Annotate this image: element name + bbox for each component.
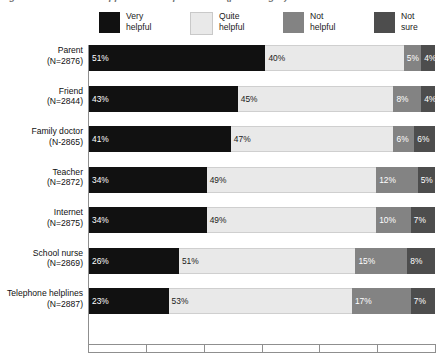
bar-row-count: (N=2869) xyxy=(0,258,83,269)
bar-row-category: Family doctor xyxy=(0,126,83,137)
bar-segment-quite-helpful[interactable]: 49% xyxy=(207,207,377,233)
bar-row-label: School nurse(N=2869) xyxy=(0,248,83,269)
stacked-bar: 26%51%15%8% xyxy=(89,248,435,274)
chart-area: Parent(N=2876)51%40%5%4%Friend(N=2844)43… xyxy=(0,41,444,341)
bar-segment-value: 5% xyxy=(404,53,419,63)
figure-title: Figure 2.5 Sources of support: how helpf… xyxy=(0,0,444,3)
bar-row-label: Family doctor(N-2865) xyxy=(0,126,83,147)
legend-swatch-icon xyxy=(190,12,213,35)
bar-segment-not-sure[interactable]: 4% xyxy=(421,45,435,71)
bar-segment-very-helpful[interactable]: 34% xyxy=(89,167,207,193)
stacked-bar: 43%45%8%4% xyxy=(89,86,435,112)
bar-segment-quite-helpful[interactable]: 53% xyxy=(169,288,352,314)
stacked-bar: 34%49%12%5% xyxy=(89,167,435,193)
x-axis-tick xyxy=(146,344,147,353)
bar-segment-value: 34% xyxy=(89,175,109,185)
legend-label: Quite helpful xyxy=(219,11,244,32)
legend-item-very-helpful[interactable]: Very helpful xyxy=(99,11,151,33)
bar-row-category: School nurse xyxy=(0,248,83,259)
bar-row: Teacher(N=2872)34%49%12%5% xyxy=(0,167,444,193)
bar-segment-value: 45% xyxy=(238,94,258,104)
bar-segment-quite-helpful[interactable]: 49% xyxy=(207,167,377,193)
bar-segment-not-helpful[interactable]: 8% xyxy=(393,86,421,112)
bar-row-count: (N=2887) xyxy=(0,299,83,310)
bar-segment-value: 34% xyxy=(89,215,109,225)
bar-segment-not-sure[interactable]: 7% xyxy=(411,207,435,233)
bar-segment-value: 8% xyxy=(393,94,408,104)
legend-item-quite-helpful[interactable]: Quite helpful xyxy=(190,11,244,35)
bar-row-label: Teacher(N=2872) xyxy=(0,167,83,188)
bar-segment-not-helpful[interactable]: 12% xyxy=(376,167,418,193)
bar-segment-not-helpful[interactable]: 6% xyxy=(393,126,414,152)
legend-label: Very helpful xyxy=(126,11,151,32)
bar-segment-not-sure[interactable]: 6% xyxy=(414,126,435,152)
bar-segment-not-sure[interactable]: 5% xyxy=(418,167,435,193)
bar-row-category: Internet xyxy=(0,207,83,218)
bar-segment-very-helpful[interactable]: 41% xyxy=(89,126,231,152)
bar-segment-value: 49% xyxy=(207,215,227,225)
bar-row-count: (N=2844) xyxy=(0,96,83,107)
bar-segment-quite-helpful[interactable]: 47% xyxy=(231,126,394,152)
bar-segment-value: 10% xyxy=(376,215,396,225)
x-axis-tick xyxy=(377,344,378,353)
bar-segment-value: 4% xyxy=(421,53,435,63)
bar-segment-value: 5% xyxy=(418,175,433,185)
bar-segment-value: 40% xyxy=(265,53,285,63)
figure-title-text: Figure 2.5 Sources of support: how helpf… xyxy=(0,0,444,3)
bar-segment-very-helpful[interactable]: 23% xyxy=(89,288,169,314)
bar-segment-very-helpful[interactable]: 51% xyxy=(89,45,265,71)
bar-row-count: (N=2872) xyxy=(0,177,83,188)
bar-segment-value: 49% xyxy=(207,175,227,185)
bar-segment-value: 53% xyxy=(169,296,189,306)
x-axis-tick xyxy=(435,344,436,353)
bar-row: Telephone helplines(N=2887)23%53%17%7% xyxy=(0,288,444,314)
bar-segment-not-helpful[interactable]: 10% xyxy=(376,207,411,233)
legend-label: Not helpful xyxy=(310,11,335,32)
bar-segment-value: 43% xyxy=(89,94,109,104)
bar-segment-value: 23% xyxy=(89,296,109,306)
bar-segment-quite-helpful[interactable]: 45% xyxy=(238,86,394,112)
legend-swatch-icon xyxy=(283,12,304,33)
bar-segment-quite-helpful[interactable]: 40% xyxy=(265,45,403,71)
bar-segment-very-helpful[interactable]: 26% xyxy=(89,248,179,274)
legend-swatch-icon xyxy=(374,12,395,33)
bar-segment-not-helpful[interactable]: 17% xyxy=(352,288,411,314)
x-axis-tick xyxy=(204,344,205,353)
bar-row-label: Friend(N=2844) xyxy=(0,86,83,107)
stacked-bar: 23%53%17%7% xyxy=(89,288,435,314)
x-axis-tick xyxy=(88,344,89,353)
bar-row: Friend(N=2844)43%45%8%4% xyxy=(0,86,444,112)
bar-row-label: Parent(N=2876) xyxy=(0,45,83,66)
bar-segment-very-helpful[interactable]: 43% xyxy=(89,86,238,112)
bar-segment-value: 47% xyxy=(231,134,251,144)
stacked-bar: 51%40%5%4% xyxy=(89,45,435,71)
stacked-bar: 41%47%6%6% xyxy=(89,126,435,152)
legend-swatch-icon xyxy=(99,12,120,33)
stacked-bar: 34%49%10%7% xyxy=(89,207,435,233)
bar-segment-very-helpful[interactable]: 34% xyxy=(89,207,207,233)
bar-segment-value: 12% xyxy=(376,175,396,185)
bar-row-label: Internet(N=2875) xyxy=(0,207,83,228)
bar-row-category: Friend xyxy=(0,86,83,97)
bar-row-label: Telephone helplines(N=2887) xyxy=(0,288,83,309)
legend-item-not-helpful[interactable]: Not helpful xyxy=(283,11,335,33)
legend-item-not-sure[interactable]: Not sure xyxy=(374,11,418,33)
bar-row: Parent(N=2876)51%40%5%4% xyxy=(0,45,444,71)
bar-segment-value: 4% xyxy=(421,94,435,104)
legend-label: Not sure xyxy=(401,11,418,32)
bar-row-category: Teacher xyxy=(0,167,83,178)
bar-segment-value: 7% xyxy=(411,215,426,225)
bar-segment-value: 7% xyxy=(411,296,426,306)
bar-segment-value: 15% xyxy=(355,256,375,266)
bar-segment-not-sure[interactable]: 4% xyxy=(421,86,435,112)
bar-segment-not-sure[interactable]: 8% xyxy=(407,248,435,274)
bar-segment-not-helpful[interactable]: 5% xyxy=(404,45,421,71)
bar-row: Family doctor(N-2865)41%47%6%6% xyxy=(0,126,444,152)
bar-segment-value: 51% xyxy=(179,256,199,266)
bar-row-count: (N=2876) xyxy=(0,56,83,67)
bar-segment-not-sure[interactable]: 7% xyxy=(411,288,435,314)
bar-segment-quite-helpful[interactable]: 51% xyxy=(179,248,355,274)
bar-segment-not-helpful[interactable]: 15% xyxy=(355,248,407,274)
bar-segment-value: 8% xyxy=(407,256,422,266)
chart-legend: Very helpfulQuite helpfulNot helpfulNot … xyxy=(0,9,444,39)
